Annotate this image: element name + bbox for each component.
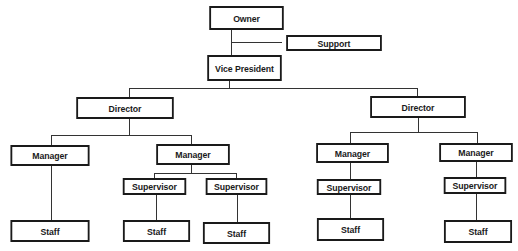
node-vice-president: Vice President — [207, 55, 282, 81]
node-manager-3: Manager — [316, 143, 389, 163]
node-director-right: Director — [370, 96, 466, 118]
node-supervisor-4: Supervisor — [444, 177, 507, 194]
connector — [229, 80, 230, 88]
node-staff-4: Staff — [317, 218, 384, 241]
connector — [350, 162, 351, 179]
connector — [418, 117, 419, 132]
connector — [476, 161, 477, 177]
connector — [129, 88, 418, 89]
node-supervisor-1: Supervisor — [123, 178, 186, 195]
connector — [51, 135, 52, 145]
connector — [156, 194, 157, 222]
connector — [154, 173, 236, 174]
org-chart: Owner Support Vice President Director Di… — [0, 0, 518, 251]
node-manager-1: Manager — [10, 145, 89, 166]
node-owner: Owner — [209, 6, 284, 30]
node-support: Support — [286, 35, 382, 51]
node-staff-2: Staff — [123, 220, 190, 242]
connector — [129, 118, 130, 135]
connector — [129, 88, 130, 97]
node-staff-1: Staff — [10, 220, 89, 242]
connector — [51, 135, 192, 136]
node-supervisor-2: Supervisor — [206, 178, 268, 195]
node-staff-5: Staff — [444, 220, 512, 243]
node-supervisor-3: Supervisor — [317, 179, 381, 195]
connector — [191, 164, 192, 173]
connector — [350, 132, 478, 133]
node-director-left: Director — [76, 97, 174, 119]
node-manager-4: Manager — [439, 143, 513, 162]
node-staff-3: Staff — [203, 222, 270, 244]
node-manager-2: Manager — [156, 144, 230, 165]
connector — [231, 42, 282, 43]
